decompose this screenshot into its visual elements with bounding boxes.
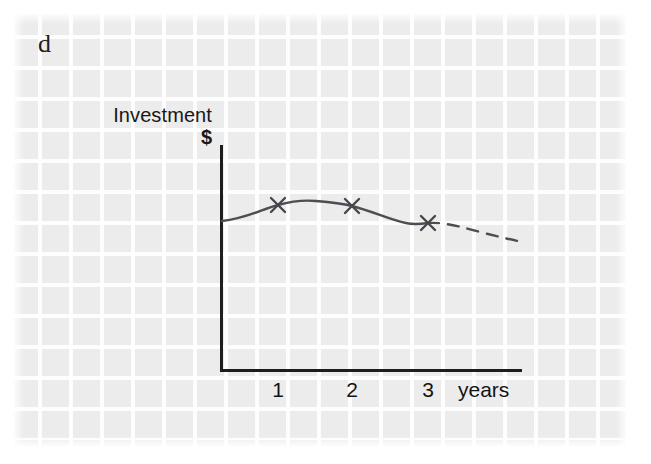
investment-curve-projected — [428, 223, 518, 241]
plot-area — [0, 0, 651, 464]
figure-panel: d Investment $ 1 2 3 years — [0, 0, 651, 464]
investment-curve-observed — [222, 200, 428, 224]
x-tick-label-2: 2 — [337, 379, 367, 400]
x-tick-label-1: 1 — [263, 379, 293, 400]
data-point-marker-year-1 — [271, 198, 285, 212]
x-axis-title: years — [458, 379, 509, 400]
x-tick-label-3: 3 — [413, 379, 443, 400]
